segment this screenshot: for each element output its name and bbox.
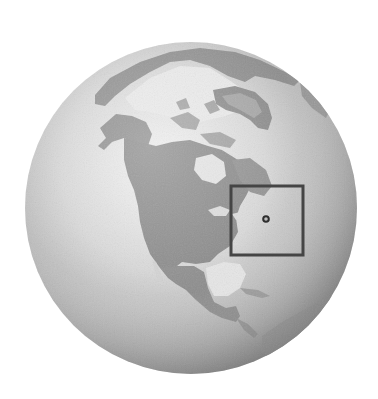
globe-map [0,0,378,399]
globe-shading [25,42,357,374]
map-stage: North America locator globe [0,0,378,399]
location-marker [263,216,269,222]
